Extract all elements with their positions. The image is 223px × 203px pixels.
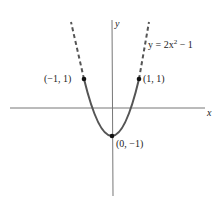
parabola-dashed-left [71,22,84,79]
parabola-figure: y x y = 2x2 − 1 (−1, 1) (1, 1) (0, −1) [0,0,223,203]
y-axis [112,20,113,196]
point-right [137,77,142,82]
equation-tail: − 1 [177,39,193,50]
equation-main: y = 2x [148,39,174,50]
x-axis-label: x [206,107,212,118]
point-vertex [110,134,115,139]
parabola-dashed-right [139,22,149,79]
point-left-label: (−1, 1) [44,73,71,85]
equation-label: y = 2x2 − 1 [148,38,193,50]
point-right-label: (1, 1) [143,73,165,85]
y-axis-label: y [114,18,120,29]
point-vertex-label: (0, −1) [116,138,143,150]
point-left [82,77,87,82]
chart-canvas: y x y = 2x2 − 1 (−1, 1) (1, 1) (0, −1) [0,0,223,203]
